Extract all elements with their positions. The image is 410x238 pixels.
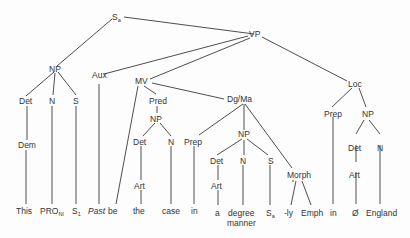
node-s-dgma: S	[268, 156, 274, 166]
node-art-loc: Art	[349, 170, 361, 180]
node-det-dgma: Det	[210, 156, 224, 166]
leaf-emph: Emph	[301, 208, 323, 218]
node-prep-loc: Prep	[324, 109, 342, 119]
tree-nodes: Sa VP NP Aux MV Det N S Dem Pred NP Det …	[18, 12, 383, 191]
node-dgma: Dg/Ma	[227, 94, 252, 104]
tree-leaves: This PRONl S1 Past be the case in a degr…	[16, 206, 397, 228]
leaf-in-2: in	[330, 208, 337, 218]
leaf-sa: Sa	[266, 208, 276, 219]
node-det-pred: Det	[133, 137, 147, 147]
node-s-subject: S	[73, 96, 79, 106]
leaf-case: case	[162, 206, 180, 216]
node-n-pred: N	[168, 137, 174, 147]
node-mv: MV	[135, 76, 148, 86]
node-vp: VP	[249, 29, 261, 39]
leaf-england: England	[366, 208, 397, 218]
leaf-past: Past	[88, 206, 106, 216]
leaf-manner: manner	[227, 218, 256, 228]
node-prep-dgma: Prep	[184, 137, 202, 147]
node-dem: Dem	[18, 140, 36, 150]
leaf-s1: S1	[72, 206, 81, 217]
node-root: Sa	[112, 12, 122, 23]
leaf-pro: PRONl	[40, 206, 64, 217]
node-n-subject: N	[49, 96, 55, 106]
leaf-be: be	[108, 206, 118, 216]
node-aux: Aux	[92, 70, 107, 80]
node-n-loc: N	[377, 143, 383, 153]
leaf-the: the	[133, 206, 145, 216]
node-loc: Loc	[348, 79, 362, 89]
node-det-subject: Det	[19, 96, 33, 106]
node-np-subject: NP	[49, 64, 61, 74]
leaf-a: a	[215, 208, 220, 218]
node-art-pred: Art	[134, 181, 146, 191]
node-np-pred: NP	[150, 114, 162, 124]
node-art-dgma: Art	[211, 181, 223, 191]
node-n-dgma: N	[240, 156, 246, 166]
leaf-null: Ø	[352, 208, 359, 218]
leaf-in-1: in	[191, 206, 198, 216]
leaf-ly: -ly	[284, 208, 294, 218]
node-np-loc: NP	[362, 109, 374, 119]
syntax-tree: Sa VP NP Aux MV Det N S Dem Pred NP Det …	[0, 0, 410, 238]
leaf-degree: degree	[228, 208, 255, 218]
node-pred: Pred	[149, 96, 167, 106]
leaf-this: This	[16, 206, 32, 216]
node-morph: Morph	[287, 170, 311, 180]
node-det-loc: Det	[348, 143, 362, 153]
node-np-dgma: NP	[238, 129, 250, 139]
